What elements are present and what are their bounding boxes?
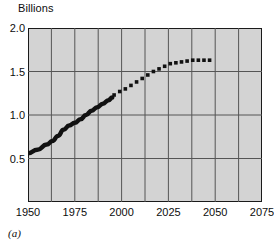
series-marker-projection [168,62,172,66]
series-marker-projection [146,73,150,77]
data-series-layer [28,58,211,153]
series-marker-projection [174,61,178,65]
x-tick-label: 1975 [63,206,87,218]
x-tick-label: 2075 [250,206,274,218]
x-tick-label: 2050 [203,206,227,218]
plot-area [28,28,262,202]
series-marker-projection [124,87,128,91]
y-tick-label: 1.5 [10,66,25,78]
series-marker-projection [197,58,201,62]
series-marker-projection [140,77,144,81]
gridlines [28,28,262,202]
x-tick-label: 2025 [156,206,180,218]
figure-caption: (a) [8,227,21,239]
series-marker-projection [152,70,156,74]
series-marker-projection [112,93,116,97]
x-axis-tick-labels: 195019752000202520502075 [28,206,262,222]
series-marker-projection [185,59,189,63]
series-marker-projection [163,64,167,68]
y-axis-title: Billions [18,2,54,14]
x-tick-label: 2000 [109,206,133,218]
series-marker-projection [118,90,122,94]
series-marker-projection [129,84,133,88]
y-axis-tick-labels: 0.51.01.52.0 [0,28,25,202]
y-tick-label: 0.5 [10,153,25,165]
x-tick-label: 1950 [16,206,40,218]
series-line-historical [28,98,112,154]
series-marker-projection [191,58,195,62]
series-marker-projection [202,58,206,62]
chart-canvas [28,28,262,202]
series-marker-projection [180,60,184,64]
series-marker-projection [135,80,139,84]
y-tick-label: 2.0 [10,22,25,34]
series-marker-projection [157,67,161,71]
y-tick-label: 1.0 [10,109,25,121]
population-projection-chart: Billions 0.51.01.52.0 195019752000202520… [0,0,274,248]
series-marker-projection [208,58,212,62]
